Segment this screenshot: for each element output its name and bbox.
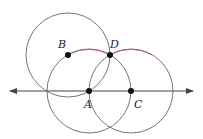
- label-C: C: [134, 98, 143, 111]
- label-D: D: [109, 38, 119, 51]
- point-C: [128, 88, 134, 94]
- geometry-diagram: A B C D: [0, 0, 203, 139]
- arc-B-to-D: [68, 49, 110, 55]
- point-D: [107, 52, 113, 58]
- label-B: B: [57, 38, 66, 51]
- point-A: [86, 88, 92, 94]
- point-B: [65, 52, 71, 58]
- label-A: A: [83, 98, 92, 111]
